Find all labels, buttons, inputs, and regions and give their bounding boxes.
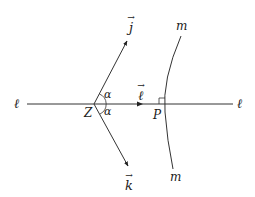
point-label-p: P	[153, 109, 161, 121]
vector-label-j: → j	[125, 14, 137, 34]
vector-label-k: → k	[123, 172, 135, 192]
curve-label-m-top: m	[176, 20, 187, 32]
vector-label-l: → ℓ	[135, 82, 147, 102]
line-label-left: ℓ	[14, 97, 19, 110]
line-label-right: ℓ	[237, 97, 242, 110]
vector-l-text: ℓ	[138, 88, 143, 103]
vertex-label-z: Z	[84, 107, 92, 119]
vector-j-text: j	[129, 20, 133, 35]
angle-label-upper: α	[104, 89, 111, 100]
angle-label-lower: α	[104, 106, 111, 117]
curve-label-m-bottom: m	[170, 171, 181, 183]
vector-k-text: k	[125, 178, 133, 193]
curve-m	[165, 36, 181, 169]
